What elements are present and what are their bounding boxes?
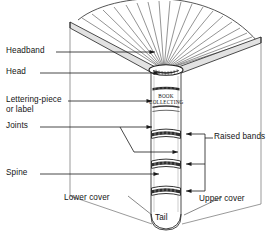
leaf-ray [164,37,252,70]
label-lettering-piece-line1: Lettering-piece [6,95,62,105]
book-anatomy-diagram: Headband Head Lettering-piece or label J… [0,0,273,239]
raised-bands-arrowheads [186,132,192,193]
leaf-ray [82,18,164,70]
upper-cover-bottom-edge [182,204,261,224]
label-tail: Tail [155,213,168,223]
leader-lower-cover [128,196,152,215]
label-upper-cover: Upper cover [199,194,245,204]
label-joints: Joints [6,121,28,131]
spine-title-line2: COLLECTING [149,99,183,105]
leaf-ray [164,1,170,70]
label-raised-bands: Raised bands [214,132,265,142]
label-lettering-piece-line2: or label [6,105,34,115]
label-head: Head [6,67,26,77]
label-spine: Spine [6,168,27,178]
fanned-leaves-group [82,1,256,70]
lower-cover-top-face [70,22,161,74]
label-headband: Headband [6,46,45,56]
raised-bands-bracket [186,134,213,191]
label-lower-cover: Lower cover [64,193,110,203]
